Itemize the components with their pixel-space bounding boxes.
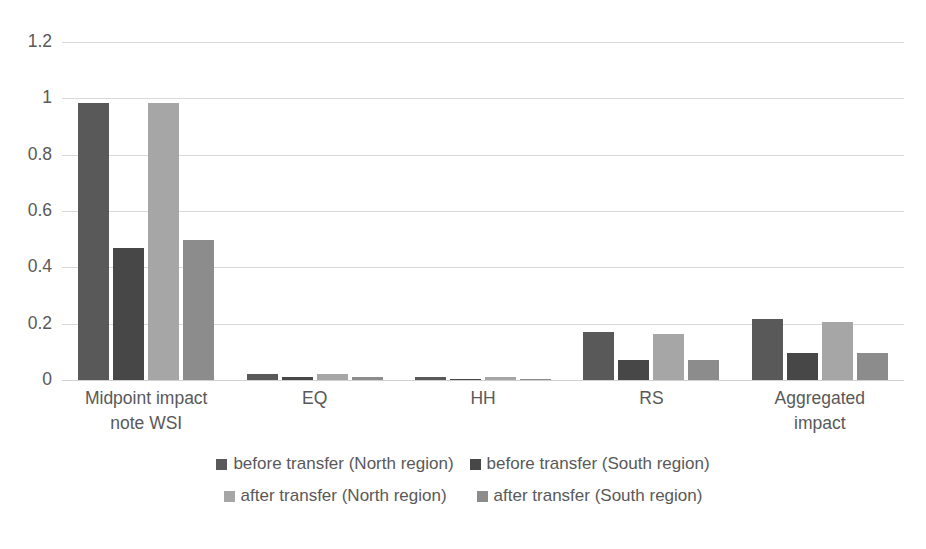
bar[interactable]: [113, 248, 144, 380]
legend-item[interactable]: before transfer (South region): [470, 454, 710, 474]
x-axis-category-label: HH: [399, 386, 567, 436]
x-axis-category-label: Midpoint impactnote WSI: [62, 386, 230, 436]
y-axis-tick-label: 0.4: [0, 259, 52, 277]
plot-area: [62, 42, 904, 380]
bar[interactable]: [618, 360, 649, 380]
y-axis-tick-label: 0.6: [0, 202, 52, 220]
bar[interactable]: [317, 374, 348, 380]
bar-group-bars: [62, 42, 230, 380]
bar[interactable]: [183, 240, 214, 380]
bar[interactable]: [247, 374, 278, 380]
y-axis-tick-label: 1: [0, 90, 52, 108]
bar-group: [736, 42, 904, 380]
bar[interactable]: [752, 319, 783, 380]
x-axis-category-line: note WSI: [66, 411, 226, 436]
legend-item-label: before transfer (North region): [233, 454, 453, 474]
legend-swatch-icon: [224, 491, 235, 502]
bar-group: [399, 42, 567, 380]
y-axis-tick-label: 1.2: [0, 33, 52, 51]
x-axis-category-line: RS: [571, 386, 731, 411]
legend-item-label: before transfer (South region): [487, 454, 710, 474]
legend-row-1: before transfer (North region)before tra…: [0, 448, 926, 480]
bar-group-bars: [399, 42, 567, 380]
x-axis-category-line: Aggregated: [740, 386, 900, 411]
legend-item-label: after transfer (South region): [494, 486, 703, 506]
x-axis-category-line: Midpoint impact: [66, 386, 226, 411]
legend-item[interactable]: before transfer (North region): [216, 454, 453, 474]
bar-group-bars: [736, 42, 904, 380]
bar[interactable]: [688, 360, 719, 380]
bar-group-bars: [567, 42, 735, 380]
legend-item-label: after transfer (North region): [241, 486, 447, 506]
bar[interactable]: [415, 377, 446, 380]
bar-group: [567, 42, 735, 380]
bar-group-bars: [230, 42, 398, 380]
bar[interactable]: [653, 334, 684, 380]
legend-item[interactable]: after transfer (South region): [477, 486, 703, 506]
legend: before transfer (North region)before tra…: [0, 448, 926, 512]
x-axis-category-label: Aggregatedimpact: [736, 386, 904, 436]
x-axis-category-label: EQ: [230, 386, 398, 436]
x-axis-baseline: [62, 380, 904, 381]
legend-swatch-icon: [216, 459, 227, 470]
legend-swatch-icon: [477, 491, 488, 502]
bar[interactable]: [485, 377, 516, 380]
legend-item[interactable]: after transfer (North region): [224, 486, 447, 506]
bar[interactable]: [857, 353, 888, 380]
bar[interactable]: [450, 379, 481, 380]
bar[interactable]: [282, 377, 313, 380]
bar[interactable]: [822, 322, 853, 380]
y-axis-tick-label: 0.8: [0, 146, 52, 164]
bar-chart: 00.20.40.60.811.2 Midpoint impactnote WS…: [0, 0, 926, 549]
legend-row-2: after transfer (North region)after trans…: [0, 480, 926, 512]
y-axis-tick-label: 0.2: [0, 315, 52, 333]
bar[interactable]: [583, 332, 614, 380]
bar-group: [62, 42, 230, 380]
bar-groups: [62, 42, 904, 380]
x-axis-category-line: impact: [740, 411, 900, 436]
x-axis-labels: Midpoint impactnote WSIEQHHRSAggregatedi…: [62, 386, 904, 436]
x-axis-category-line: HH: [403, 386, 563, 411]
bar[interactable]: [352, 377, 383, 380]
x-axis-category-label: RS: [567, 386, 735, 436]
bar[interactable]: [787, 353, 818, 380]
bar[interactable]: [520, 379, 551, 380]
y-axis-tick-label: 0: [0, 371, 52, 389]
bar-group: [230, 42, 398, 380]
x-axis-category-line: EQ: [234, 386, 394, 411]
legend-swatch-icon: [470, 459, 481, 470]
bar[interactable]: [148, 103, 179, 380]
bar[interactable]: [78, 103, 109, 380]
